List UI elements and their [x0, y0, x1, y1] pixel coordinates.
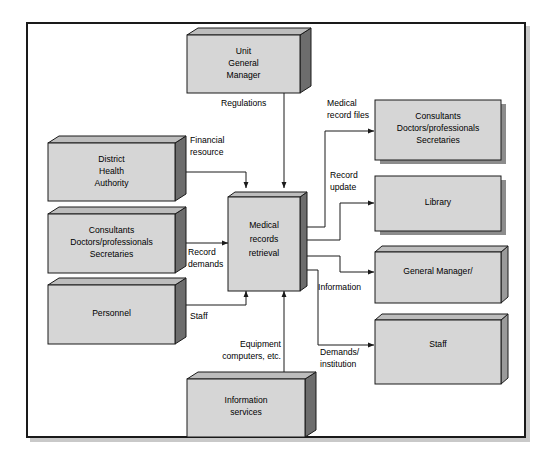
flow-label-line: Regulations: [221, 98, 266, 108]
node-label-line: Doctors/professionals: [397, 123, 480, 133]
flow-label-line: Medical: [327, 98, 357, 108]
node-label-line: Secretaries: [90, 249, 133, 259]
flow-label-line: demands: [188, 259, 223, 269]
flow-label-line: Financial: [190, 135, 224, 145]
node-label-line: services: [230, 407, 262, 417]
node-library[interactable]: Library: [375, 176, 506, 235]
node-label-line: Manager: [227, 70, 261, 80]
flow-label-line: Staff: [190, 311, 208, 321]
flow-label-financial-resource: Financial resource: [190, 135, 224, 157]
node-label-line: Library: [425, 197, 452, 207]
dataflow-diagram: Unit General Manager District Health Aut…: [0, 0, 554, 463]
flow-label-line: Record: [330, 170, 358, 180]
node-label-line: Consultants: [415, 111, 460, 121]
flow-label-line: record files: [327, 110, 369, 120]
flow-label-regulations: Regulations: [221, 98, 266, 108]
node-consultants-right[interactable]: Consultants Doctors/professionals Secret…: [375, 100, 506, 164]
node-district-health-authority[interactable]: District Health Authority: [48, 136, 186, 201]
flow-label-demands-institution: Demands/ institution: [320, 347, 360, 369]
node-label-line: Secretaries: [416, 135, 459, 145]
node-label-line: District: [98, 154, 125, 164]
node-information-services[interactable]: Information services: [187, 372, 316, 437]
node-label-line: Doctors/professionals: [70, 237, 153, 247]
node-label-line: retrieval: [249, 248, 280, 258]
flow-label-information: Information: [318, 282, 361, 292]
diagram-canvas: Unit General Manager District Health Aut…: [0, 0, 554, 463]
flow-label-record-demands: Record demands: [188, 247, 223, 269]
flow-label-medical-record-files: Medical record files: [327, 98, 369, 120]
node-label-line: Personnel: [92, 308, 131, 318]
node-label-line: General Manager/: [403, 266, 473, 276]
node-label-line: General: [228, 58, 259, 68]
node-label-line: records: [250, 234, 279, 244]
flow-arrow-record-update: [307, 203, 374, 240]
node-label-line: Unit: [236, 46, 252, 56]
flow-label-line: institution: [320, 359, 357, 369]
node-label-line: Authority: [95, 178, 130, 188]
node-general-manager[interactable]: General Manager/: [375, 246, 508, 303]
node-medical-records-retrieval[interactable]: Medical records retrieval: [228, 192, 307, 291]
node-personnel[interactable]: Personnel: [48, 278, 186, 344]
flow-label-line: Record: [188, 247, 216, 257]
node-label-line: Health: [99, 166, 124, 176]
node-label-line: Medical: [249, 220, 279, 230]
flow-arrow-financial-resource: [186, 172, 246, 188]
flow-label-line: update: [330, 182, 357, 192]
flow-label-line: Demands/: [320, 347, 360, 357]
node-label-line: Information: [225, 395, 268, 405]
flow-arrow-staff: [186, 291, 246, 305]
node-label-line: Consultants: [89, 225, 134, 235]
flow-arrow-demands-institution: [307, 270, 374, 345]
flow-label-line: resource: [190, 147, 224, 157]
node-label-line: Staff: [429, 339, 447, 349]
flow-label-record-update: Record update: [330, 170, 358, 192]
flow-label-staff: Staff: [190, 311, 208, 321]
node-unit-general-manager[interactable]: Unit General Manager: [187, 28, 311, 93]
flow-label-line: Equipment: [240, 339, 282, 349]
node-staff-right[interactable]: Staff: [375, 314, 508, 384]
flow-label-line: computers, etc.: [222, 351, 281, 361]
flow-label-line: Information: [318, 282, 361, 292]
node-consultants-left[interactable]: Consultants Doctors/professionals Secret…: [48, 207, 186, 273]
flow-label-equipment-computers: Equipment computers, etc.: [222, 339, 281, 361]
